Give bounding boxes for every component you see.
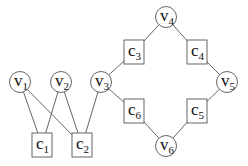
edge-v3-c3 (109, 61, 124, 75)
variable-node-v5: v5 (217, 71, 238, 93)
variable-node-v1: v1 (10, 71, 31, 93)
check-node-c4: c4 (187, 40, 207, 64)
edge-v3-c6 (109, 89, 124, 102)
nodes: v1v2v3v4v5v6c1c2c3c4c5c6 (10, 6, 238, 157)
factor-graph-diagram: v1v2v3v4v5v6c1c2c3c4c5c6 (0, 0, 248, 166)
check-node-c1: c1 (32, 133, 52, 157)
check-node-c5: c5 (187, 99, 207, 123)
variable-node-v6: v6 (156, 135, 177, 157)
edge-v6-c6 (144, 122, 159, 138)
graph-svg: v1v2v3v4v5v6c1c2c3c4c5c6 (0, 0, 248, 166)
edge-v3-c2 (86, 92, 98, 133)
edge-v5-c5 (207, 89, 219, 101)
variable-node-v2: v2 (51, 71, 72, 93)
edge-v2-c1 (46, 92, 58, 133)
check-node-c3: c3 (124, 40, 144, 64)
edge-v4-c4 (173, 25, 187, 41)
edge-v5-c4 (207, 62, 220, 75)
check-node-c2: c2 (72, 133, 92, 157)
variable-node-v4: v4 (156, 6, 177, 28)
edge-v2-c2 (64, 92, 78, 133)
check-node-c6: c6 (124, 99, 144, 123)
edge-v6-c5 (173, 122, 187, 138)
variable-node-v3: v3 (91, 71, 112, 93)
edge-v4-c3 (144, 25, 159, 41)
